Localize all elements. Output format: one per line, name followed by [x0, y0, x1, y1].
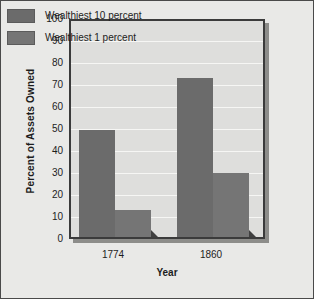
x-axis-title: Year — [69, 267, 265, 278]
bar-body — [115, 210, 151, 238]
y-axis-tick-label: 70 — [37, 80, 63, 90]
bar-body — [79, 130, 115, 237]
legend-item: Wealthiest 10 percent — [7, 6, 182, 25]
y-axis-tick-label: 80 — [37, 58, 63, 68]
chart-legend: Wealthiest 10 percentWealthiest 1 percen… — [7, 6, 182, 50]
y-axis-tick-label: 40 — [37, 146, 63, 156]
y-axis-tick-labels: 0102030405060708090100 — [37, 19, 63, 239]
legend-label: Wealthiest 1 percent — [45, 32, 136, 43]
x-axis-tick-label: 1774 — [83, 249, 143, 260]
gridline — [71, 85, 263, 86]
bar-drop-shadow — [151, 230, 162, 239]
plot-area — [69, 19, 265, 239]
gridline — [71, 63, 263, 64]
bar-body — [177, 78, 213, 238]
legend-swatch — [7, 31, 35, 45]
bar — [213, 173, 249, 237]
bar — [177, 78, 213, 238]
x-axis-tick-labels: 17741860 — [69, 249, 265, 263]
chart-figure: Percent of Assets Owned 0102030405060708… — [0, 0, 314, 299]
legend-label: Wealthiest 10 percent — [45, 10, 142, 21]
y-axis-tick-label: 10 — [37, 212, 63, 222]
legend-swatch — [7, 9, 35, 23]
plot-inner — [71, 21, 263, 237]
bar — [115, 210, 151, 238]
y-axis-tick-label: 60 — [37, 102, 63, 112]
legend-item: Wealthiest 1 percent — [7, 28, 182, 47]
y-axis-tick-label: 0 — [37, 234, 63, 244]
gridline — [71, 107, 263, 108]
bar-body — [213, 173, 249, 237]
x-axis-tick-label: 1860 — [181, 249, 241, 260]
y-axis-tick-label: 30 — [37, 168, 63, 178]
bar-drop-shadow — [249, 230, 260, 239]
bar — [79, 130, 115, 237]
y-axis-tick-label: 20 — [37, 190, 63, 200]
y-axis-tick-label: 50 — [37, 124, 63, 134]
